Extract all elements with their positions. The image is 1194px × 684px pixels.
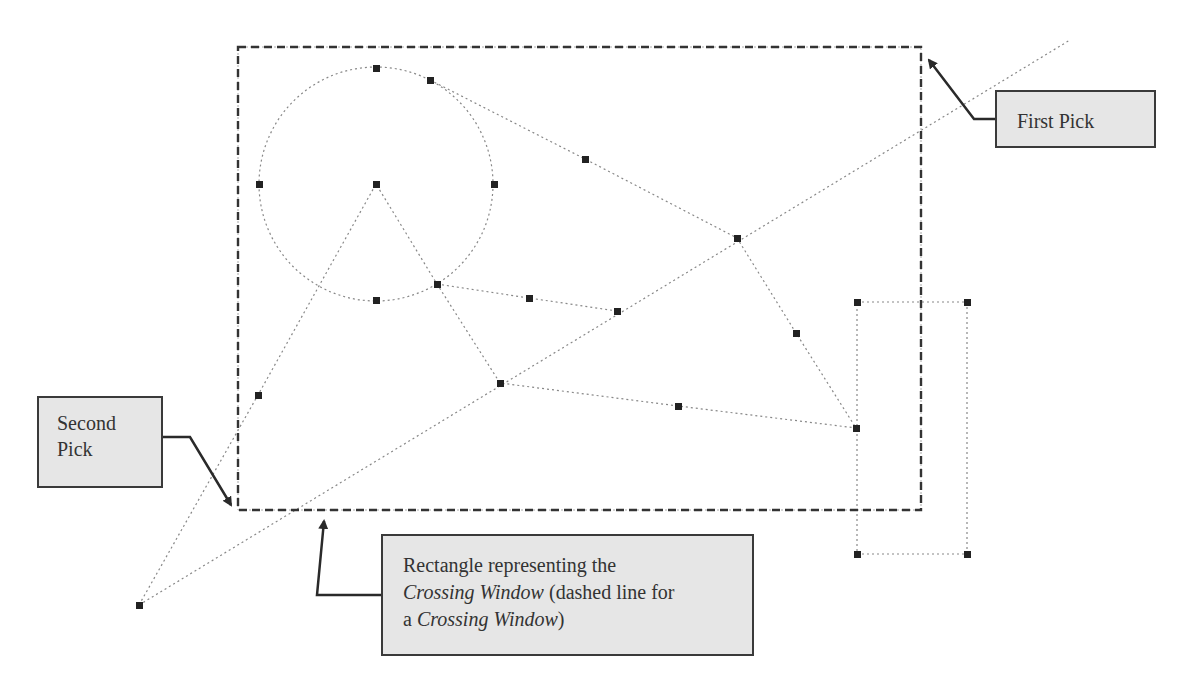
grip[interactable] bbox=[497, 380, 504, 387]
polyline-entity-upper[interactable] bbox=[430, 80, 856, 428]
grip[interactable] bbox=[256, 181, 263, 188]
crossing-note-line1: Rectangle representing the bbox=[403, 552, 752, 579]
second-pick-label-line2: Pick bbox=[57, 436, 161, 462]
grip[interactable] bbox=[427, 77, 434, 84]
grip[interactable] bbox=[526, 295, 533, 302]
first-pick-label: First Pick bbox=[1017, 110, 1094, 132]
crossing-note-line2: Crossing Window (dashed line for bbox=[403, 579, 752, 606]
crossing-note-line3-start: a bbox=[403, 608, 417, 630]
grip[interactable] bbox=[255, 392, 262, 399]
grip[interactable] bbox=[964, 551, 971, 558]
grip[interactable] bbox=[793, 330, 800, 337]
second-pick-callout: Second Pick bbox=[37, 396, 163, 488]
first-pick-callout: First Pick bbox=[995, 90, 1156, 148]
crossing-window-term: Crossing Window bbox=[417, 608, 558, 630]
grip[interactable] bbox=[614, 308, 621, 315]
grip[interactable] bbox=[854, 299, 861, 306]
grip[interactable] bbox=[734, 235, 741, 242]
second-pick-arrow-icon bbox=[163, 437, 231, 505]
grip[interactable] bbox=[582, 156, 589, 163]
grip[interactable] bbox=[373, 297, 380, 304]
first-pick-arrow-icon bbox=[929, 60, 995, 119]
crossing-window bbox=[238, 47, 921, 510]
crossing-window-arrow-icon bbox=[317, 521, 381, 595]
crossing-window-callout: Rectangle representing the Crossing Wind… bbox=[381, 534, 754, 656]
small-rectangle-entity[interactable] bbox=[857, 302, 967, 554]
grip[interactable] bbox=[675, 403, 682, 410]
grip[interactable] bbox=[373, 65, 380, 72]
grip[interactable] bbox=[434, 281, 441, 288]
construction-line[interactable] bbox=[139, 40, 1070, 605]
grip[interactable] bbox=[136, 602, 143, 609]
grip[interactable] bbox=[854, 551, 861, 558]
crossing-note-line3-end: ) bbox=[558, 608, 565, 630]
geometry-lines bbox=[139, 40, 1070, 605]
crossing-note-line3: a Crossing Window) bbox=[403, 606, 752, 633]
grip[interactable] bbox=[853, 425, 860, 432]
crossing-window-term: Crossing Window bbox=[403, 581, 544, 603]
grip-points bbox=[136, 65, 971, 609]
crossing-note-line2-text: (dashed line for bbox=[544, 581, 675, 603]
grip[interactable] bbox=[964, 299, 971, 306]
grip[interactable] bbox=[491, 181, 498, 188]
grip[interactable] bbox=[373, 181, 380, 188]
leader-arrows bbox=[163, 60, 995, 595]
second-pick-label-line1: Second bbox=[57, 410, 161, 436]
